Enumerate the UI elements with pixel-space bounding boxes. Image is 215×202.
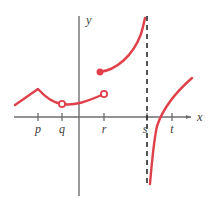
filled-dot-at-r: [97, 69, 103, 75]
tick-label-p: p: [34, 122, 41, 136]
x-axis-arrow: [186, 115, 191, 119]
plot-canvas: p q r s t x y: [0, 0, 215, 202]
y-axis-label: y: [84, 13, 92, 27]
x-axis-label: x: [196, 110, 203, 124]
curve-middle-upper-branch: [100, 18, 145, 72]
tick-label-r: r: [102, 122, 107, 136]
open-circle-at-q: [59, 101, 65, 107]
curve-left-branch: [15, 89, 62, 105]
tick-label-s: s: [143, 122, 148, 136]
curve-middle-lower-branch: [62, 94, 104, 105]
open-circle-at-r: [101, 91, 107, 97]
tick-label-t: t: [170, 122, 174, 136]
x-axis: [14, 115, 191, 119]
tick-label-q: q: [59, 122, 65, 136]
graph-figure: p q r s t x y: [0, 0, 215, 202]
